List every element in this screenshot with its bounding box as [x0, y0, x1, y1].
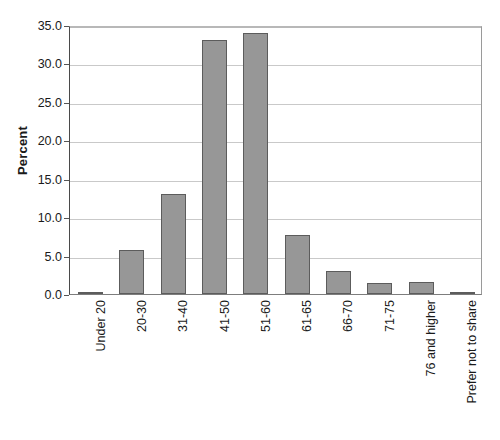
bar: [78, 292, 103, 295]
x-axis-tick-label: 66-70: [342, 300, 355, 332]
x-axis-tick-label: Under 20: [95, 300, 108, 351]
y-axis-tick-label: 0.0: [45, 289, 62, 302]
y-axis-tick-label: 30.0: [38, 58, 62, 71]
x-axis-tick-label: 71-75: [384, 300, 397, 332]
bar: [285, 235, 310, 294]
bar: [119, 250, 144, 294]
bar-chart: Percent 0.05.010.015.020.025.030.035.0 U…: [0, 0, 500, 440]
y-axis-tick-label: 35.0: [38, 20, 62, 33]
x-axis-tick-label: 31-40: [177, 300, 190, 332]
bar: [409, 282, 434, 294]
bar: [326, 271, 351, 294]
y-axis-tick-label: 5.0: [45, 250, 62, 263]
y-axis-tick-label: 25.0: [38, 97, 62, 110]
x-axis-tick-label: 41-50: [219, 300, 232, 332]
bar: [202, 40, 227, 294]
y-axis-tick-labels: 0.05.010.015.020.025.030.035.0: [26, 26, 62, 295]
bar: [367, 283, 392, 294]
x-axis-tick-labels: Under 2020-3031-4041-5051-6061-6566-7071…: [69, 300, 482, 438]
x-axis-tick-label: 61-65: [301, 300, 314, 332]
y-axis-tick-mark: [64, 295, 69, 296]
plot-area: [69, 26, 482, 295]
x-axis-tick-label: 20-30: [136, 300, 149, 332]
bars-layer: [70, 27, 481, 294]
x-axis-tick-label: Prefer not to share: [466, 300, 479, 404]
bar: [161, 194, 186, 294]
x-axis-tick-label: 51-60: [260, 300, 273, 332]
bar: [243, 33, 268, 294]
x-axis-tick-label: 76 and higher: [425, 300, 438, 376]
y-axis-tick-label: 20.0: [38, 135, 62, 148]
bar: [450, 292, 475, 295]
y-axis-tick-label: 10.0: [38, 212, 62, 225]
y-axis-tick-label: 15.0: [38, 173, 62, 186]
